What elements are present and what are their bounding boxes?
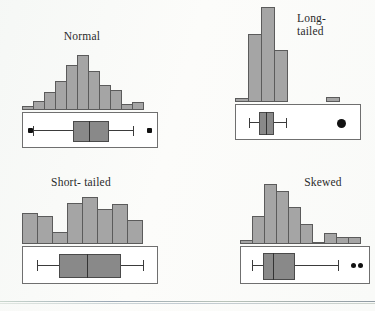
boxplot-whisker-cap-high xyxy=(286,118,287,128)
boxplot-whisker-cap-low xyxy=(252,260,253,271)
boxplot-long-tailed xyxy=(235,104,361,140)
boxplot-plot-area xyxy=(241,247,369,283)
histogram-bar xyxy=(132,102,144,110)
histogram-bar xyxy=(52,232,68,244)
boxplot-whisker-cap-low xyxy=(249,118,250,128)
histogram-bar xyxy=(235,98,249,102)
boxplot-median-line xyxy=(266,112,267,135)
histogram-short-tailed xyxy=(22,196,150,244)
boxplot-whisker-cap-low xyxy=(37,260,38,271)
histogram-bar xyxy=(67,203,83,244)
boxplot-median-line xyxy=(273,253,274,280)
boxplot-median-line xyxy=(89,121,90,142)
panel-normal: Normal xyxy=(22,14,172,150)
histogram-bar xyxy=(97,209,113,244)
panel-long-tailed: Long- tailed xyxy=(235,6,375,156)
boxplot-whisker-cap-high xyxy=(143,260,144,271)
panel-label-normal: Normal xyxy=(52,30,112,43)
histogram-bar xyxy=(274,50,288,102)
histogram-bar xyxy=(248,34,262,102)
histogram-bar xyxy=(127,220,143,244)
boxplot-normal xyxy=(22,112,158,148)
boxplot-whisker-cap-high xyxy=(133,126,134,136)
boxplot-outlier xyxy=(147,128,152,133)
histogram-normal xyxy=(22,54,150,110)
histogram-bar xyxy=(22,213,38,244)
boxplot-outlier xyxy=(351,263,356,268)
histogram-bar xyxy=(82,197,98,244)
figure-canvas: Normal xyxy=(0,0,375,311)
boxplot-outlier xyxy=(337,119,346,128)
boxplot-box xyxy=(73,121,109,142)
boxplot-short-tailed xyxy=(22,246,158,284)
panel-label-short-tailed: Short- tailed xyxy=(36,176,126,189)
panel-short-tailed: Short- tailed xyxy=(22,176,172,304)
histogram-bar xyxy=(326,97,340,102)
histogram-bar xyxy=(261,7,275,102)
histogram-bar xyxy=(300,224,313,244)
page-rule-primary xyxy=(0,301,375,302)
histogram-long-tailed xyxy=(235,6,357,102)
histogram-bar xyxy=(112,204,128,244)
panel-skewed: Skewed xyxy=(240,176,375,304)
boxplot-median-line xyxy=(87,254,88,278)
boxplot-whisker-cap-high xyxy=(338,260,339,271)
boxplot-box xyxy=(59,254,121,278)
boxplot-plot-area xyxy=(23,247,157,283)
boxplot-skewed xyxy=(240,246,370,284)
boxplot-box xyxy=(263,253,295,280)
histogram-bar xyxy=(348,237,361,244)
histogram-bar xyxy=(37,216,53,244)
page-rule-secondary xyxy=(0,303,375,304)
boxplot-whisker-cap-low xyxy=(33,126,34,136)
histogram-skewed xyxy=(240,184,370,244)
boxplot-plot-area xyxy=(23,113,157,147)
boxplot-plot-area xyxy=(236,105,360,139)
boxplot-outlier xyxy=(28,128,33,133)
boxplot-outlier xyxy=(358,263,363,268)
